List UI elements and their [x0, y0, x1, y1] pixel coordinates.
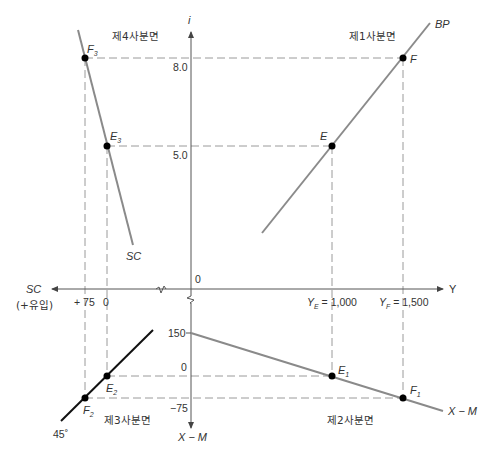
label-F3: F3 [87, 43, 98, 57]
point-E3 [104, 143, 111, 150]
origin-label: 0 [195, 273, 201, 285]
sc-curve-label: SC [126, 250, 141, 262]
label-F2: F2 [83, 404, 94, 418]
point-E [329, 143, 336, 150]
tick-plus-75: + 75 [74, 296, 95, 308]
tick-0-xm: 0 [181, 361, 187, 373]
point-E2 [104, 373, 111, 380]
tick-8: 8.0 [173, 61, 188, 73]
sc-curve [78, 30, 133, 245]
tick-yf: YF = 1,500 [379, 296, 429, 310]
xm-curve-label: X − M [447, 405, 478, 417]
tick-ye: YE = 1,000 [307, 296, 357, 310]
deg45-label: 45˚ [53, 428, 68, 440]
four-quadrant-diagram: i Y X − M SC (+유입) 0 제1사분면 제2사분면 제3사분면 제… [0, 0, 485, 460]
point-F [400, 55, 407, 62]
quadrant-4-label: 제4사분면 [112, 30, 159, 42]
label-E3: E3 [110, 130, 121, 144]
point-F1 [400, 395, 407, 402]
quadrant-3-label: 제3사분면 [104, 414, 151, 426]
tick-150: 150 [168, 327, 186, 339]
point-F3 [82, 55, 89, 62]
point-E1 [329, 373, 336, 380]
quadrant-1-label: 제1사분면 [349, 30, 396, 42]
bp-curve [262, 23, 430, 233]
quadrant-2-label: 제2사분면 [327, 414, 374, 426]
label-E: E [320, 130, 328, 142]
label-E2: E2 [106, 382, 117, 396]
sc-axis-label: SC [26, 283, 41, 295]
y-axis-label: Y [449, 283, 457, 295]
dashed-guides [85, 58, 403, 398]
xm-axis-label: X − M [177, 431, 208, 443]
i-axis-label: i [188, 14, 191, 26]
tick-5: 5.0 [173, 149, 188, 161]
label-E1: E1 [338, 364, 349, 378]
axis-break-vertical [187, 282, 194, 303]
axes [52, 32, 443, 428]
tick-0-sc: 0 [103, 296, 109, 308]
bp-curve-label: BP [435, 18, 450, 30]
sc-axis-sublabel: (+유입) [16, 299, 53, 311]
tick-minus-75: −75 [170, 402, 188, 414]
label-F1: F1 [410, 384, 421, 398]
point-F2 [82, 395, 89, 402]
label-F: F [410, 53, 418, 65]
